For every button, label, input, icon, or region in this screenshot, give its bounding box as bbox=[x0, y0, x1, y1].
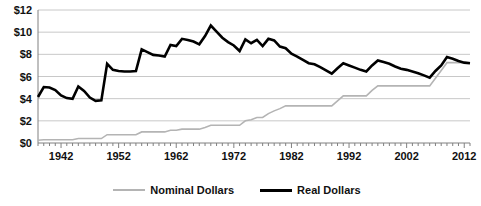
legend-item-nominal-dollars: Nominal Dollars bbox=[113, 184, 234, 196]
x-axis-tick-label: 2012 bbox=[444, 151, 481, 162]
legend-swatch-nominal-line-icon bbox=[113, 189, 145, 191]
y-axis-tick-label: $2 bbox=[0, 116, 32, 127]
legend-item-real-dollars: Real Dollars bbox=[260, 184, 361, 196]
y-axis-tick-label: $10 bbox=[0, 27, 32, 38]
x-axis-tick-label: 1962 bbox=[156, 151, 196, 162]
x-axis-tick-label: 1982 bbox=[271, 151, 311, 162]
chart-legend: Nominal Dollars Real Dollars bbox=[0, 180, 474, 200]
legend-label-nominal-dollars: Nominal Dollars bbox=[150, 184, 234, 196]
y-axis-tick-label: $4 bbox=[0, 94, 32, 105]
series-line-real-dollars bbox=[38, 26, 470, 101]
y-axis-tick-label: $12 bbox=[0, 5, 32, 16]
x-axis-tick-label: 1972 bbox=[214, 151, 254, 162]
series-line-nominal-dollars bbox=[38, 63, 470, 141]
y-axis-tick-label: $6 bbox=[0, 72, 32, 83]
legend-swatch-real-line-icon bbox=[260, 189, 292, 192]
x-axis-tick-label: 1942 bbox=[41, 151, 81, 162]
x-axis-tick-label: 1952 bbox=[99, 151, 139, 162]
y-axis-tick-label: $0 bbox=[0, 138, 32, 149]
x-axis-tick-label: 2002 bbox=[387, 151, 427, 162]
legend-label-real-dollars: Real Dollars bbox=[297, 184, 361, 196]
x-axis-ticks bbox=[38, 143, 470, 148]
x-axis-tick-label: 1992 bbox=[329, 151, 369, 162]
gridlines bbox=[38, 10, 470, 143]
y-axis-tick-label: $8 bbox=[0, 49, 32, 60]
